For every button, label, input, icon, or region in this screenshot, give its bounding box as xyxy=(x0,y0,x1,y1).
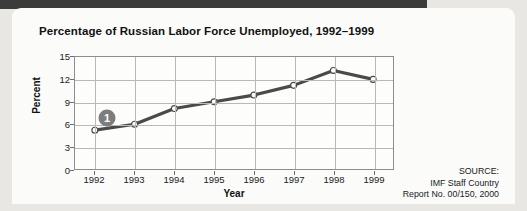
gridline-vertical xyxy=(335,57,336,169)
x-tick-mark xyxy=(254,171,255,175)
gridline-vertical xyxy=(255,57,256,169)
source-line-2: IMF Staff Country xyxy=(329,178,499,190)
plot-area: 1 xyxy=(74,56,394,170)
y-tick-label: 3 xyxy=(44,142,70,153)
gridline-horizontal xyxy=(75,80,393,81)
x-tick-label: 1993 xyxy=(123,174,144,185)
x-tick-label: 1996 xyxy=(243,174,264,185)
x-tick-label: 1995 xyxy=(203,174,224,185)
x-tick-label: 1994 xyxy=(163,174,184,185)
gridline-horizontal xyxy=(75,125,393,126)
chart-screenshot: Percentage of Russian Labor Force Unempl… xyxy=(0,0,527,211)
y-tick-label: 12 xyxy=(44,73,70,84)
source-note: SOURCE: IMF Staff Country Report No. 00/… xyxy=(329,166,499,201)
gridline-vertical xyxy=(215,57,216,169)
gridline-vertical xyxy=(175,57,176,169)
y-tick-label: 15 xyxy=(44,51,70,62)
x-tick-mark xyxy=(134,171,135,175)
source-line-3: Report No. 00/150, 2000 xyxy=(329,189,499,201)
x-tick-mark xyxy=(214,171,215,175)
annotation-badge-icon: 1 xyxy=(99,109,116,126)
y-tick-label: 9 xyxy=(44,96,70,107)
y-axis-ticks: 03691215 xyxy=(40,56,70,170)
x-tick-mark xyxy=(174,171,175,175)
x-tick-label: 1997 xyxy=(283,174,304,185)
series-line-percent-unemployed xyxy=(75,57,393,169)
chart-title: Percentage of Russian Labor Force Unempl… xyxy=(39,25,374,37)
chart-card: Percentage of Russian Labor Force Unempl… xyxy=(12,8,515,204)
gridline-vertical xyxy=(375,57,376,169)
gridline-vertical xyxy=(295,57,296,169)
gridline-horizontal xyxy=(75,148,393,149)
x-tick-label: 1992 xyxy=(83,174,104,185)
gridline-vertical xyxy=(95,57,96,169)
gridline-vertical xyxy=(135,57,136,169)
gridline-horizontal xyxy=(75,103,393,104)
x-tick-mark xyxy=(294,171,295,175)
y-tick-label: 6 xyxy=(44,119,70,130)
x-tick-mark xyxy=(94,171,95,175)
source-line-1: SOURCE: xyxy=(329,166,499,178)
y-tick-label: 0 xyxy=(44,165,70,176)
